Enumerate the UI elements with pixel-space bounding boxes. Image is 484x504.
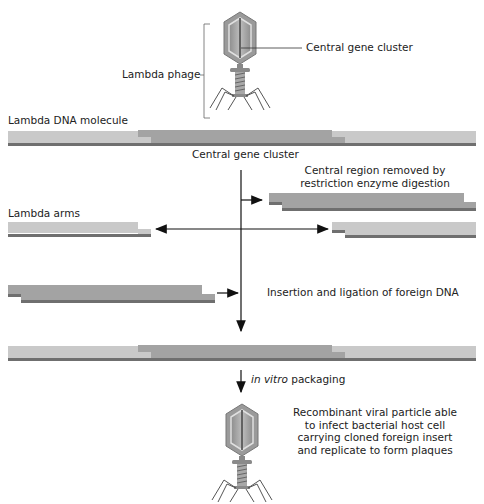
label-central-gene-cluster-mid: Central gene cluster: [192, 148, 299, 161]
right-lambda-arm: [332, 222, 476, 238]
left-lambda-arm: [8, 222, 151, 237]
lambda-phage-icon: [210, 12, 270, 110]
label-central-region-removed: Central region removed by restriction en…: [300, 164, 450, 189]
central-region-removed: [269, 193, 476, 211]
recombinant-phage-icon: [212, 404, 272, 502]
label-lambda-phage: Lambda phage: [122, 68, 201, 81]
label-lambda-dna-molecule: Lambda DNA molecule: [8, 114, 128, 127]
label-recombinant-particle: Recombinant viral particle able to infec…: [290, 406, 460, 456]
foreign-dna-insert: [8, 285, 215, 303]
recombinant-dna-molecule: [8, 345, 476, 361]
lambda-dna-molecule: [8, 130, 476, 146]
phage-bracket: [204, 24, 210, 118]
label-insertion-ligation: Insertion and ligation of foreign DNA: [267, 286, 459, 299]
label-in-vitro-packaging: in vitro packaging: [251, 373, 345, 386]
label-central-gene-cluster-top: Central gene cluster: [306, 41, 413, 54]
label-lambda-arms: Lambda arms: [8, 207, 80, 220]
